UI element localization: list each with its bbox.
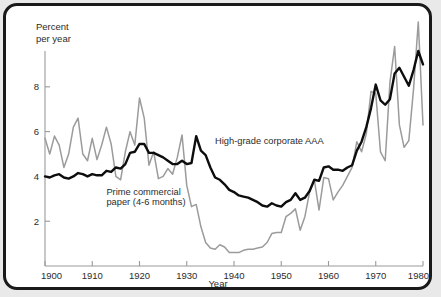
chart-page: Percent per year 2468 190019101920193019… — [0, 0, 441, 297]
series-annotation-0: High-grade corporate AAA — [215, 136, 324, 146]
x-tick-label-1960: 1960 — [318, 270, 339, 281]
y-tick-label-6: 6 — [34, 126, 39, 137]
x-tick-label-1980: 1980 — [408, 270, 429, 281]
series-annotation-2: paper (4-6 months) — [106, 197, 185, 207]
x-tick-label-1970: 1970 — [365, 270, 386, 281]
y-axis-ticks: 2468 — [34, 81, 50, 226]
chart-frame: Percent per year 2468 190019101920193019… — [3, 3, 432, 290]
x-tick-label-1930: 1930 — [176, 270, 197, 281]
x-tick-label-1900: 1900 — [41, 270, 62, 281]
series-annotation-1: Prime commercial — [106, 187, 180, 197]
x-tick-label-1950: 1950 — [271, 270, 292, 281]
y-tick-label-2: 2 — [34, 216, 39, 227]
y-tick-label-4: 4 — [34, 171, 39, 182]
interest-rates-line-chart: Percent per year 2468 190019101920193019… — [6, 6, 435, 293]
x-axis-caption: Year — [208, 278, 227, 289]
x-tick-label-1920: 1920 — [129, 270, 150, 281]
x-tick-label-1910: 1910 — [82, 270, 103, 281]
series-line-high-grade-corporate-aaa — [45, 51, 423, 207]
y-tick-label-8: 8 — [34, 81, 39, 92]
x-axis-ticks: 190019101920193019401950196019701980 — [41, 261, 429, 281]
y-axis-caption-line1: Percent — [36, 21, 69, 32]
y-axis-caption-line2: per year — [36, 33, 71, 44]
